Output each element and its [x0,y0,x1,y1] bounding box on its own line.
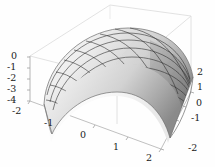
z-tick-minus-4: -4 [7,95,16,105]
x-tick-2: 2 [146,153,152,163]
y-tick-minus-2: -2 [188,143,197,153]
x-tick-0: 0 [80,130,86,140]
y-tick-minus-1: -1 [191,113,200,123]
x-tick-1: 1 [113,142,119,152]
z-tick-minus-2: -2 [7,73,16,83]
y-tick-0: 0 [196,98,202,108]
x-tick-minus-1: -1 [44,118,53,128]
x-tick-minus-2: -2 [12,106,21,116]
z-tick-minus-1: -1 [7,62,16,72]
y-tick-2: 2 [197,67,203,77]
z-tick-minus-3: -3 [7,84,16,94]
y-tick-1: 1 [197,82,203,92]
surface-plot-figure: 0 -1 -2 -3 -4 -2 -1 0 1 2 2 1 0 -1 -2 [0,0,215,167]
z-axis-ticks [27,56,30,101]
surface-plot-canvas [0,0,215,167]
z-tick-0: 0 [11,51,17,61]
surface-dome [44,28,193,148]
